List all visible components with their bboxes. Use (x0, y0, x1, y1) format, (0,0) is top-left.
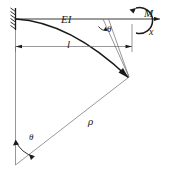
label-radius: ρ (88, 116, 93, 127)
label-flexural-rigidity: EI (61, 14, 71, 25)
moment-arrowhead (130, 8, 137, 14)
label-angle-top: θ (107, 25, 111, 34)
theta-arc-bottom-arrow-end (29, 155, 35, 161)
figure-drawing (0, 0, 171, 176)
label-moment-symbol: M (144, 7, 153, 19)
dimension-arrow-right (126, 45, 133, 48)
label-axis-x: x (149, 27, 153, 37)
dimension-arrow-left (16, 45, 23, 48)
label-applied-moment: Me (144, 8, 156, 22)
theta-arc-bottom (16, 140, 35, 157)
label-angle-bottom: θ (29, 133, 33, 142)
label-length: l (67, 39, 70, 50)
fixed-support-hatching (11, 8, 16, 29)
label-moment-subscript: e (153, 14, 156, 22)
mechanics-figure: EI Me x l ρ θ θ (0, 0, 171, 176)
radius-rho-line (16, 77, 130, 165)
